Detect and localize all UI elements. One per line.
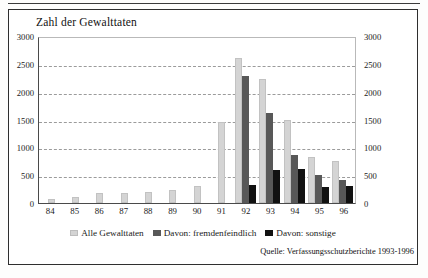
bar-group-94 [282, 38, 306, 203]
y-tick-left-2000: 2000 [2, 89, 34, 97]
bar-group-95 [306, 38, 330, 203]
top-divider [8, 3, 420, 4]
y-tick-right-2000: 2000 [364, 89, 398, 97]
source-note: Quelle: Verfassungsschutzberichte 1993-1… [260, 247, 414, 256]
bar-group-91 [209, 38, 233, 203]
x-tick-86: 86 [87, 206, 111, 216]
y-tick-right-500: 500 [364, 172, 398, 180]
bar-94-series2 [298, 169, 305, 204]
bar-90-series0 [194, 186, 201, 203]
bar-91-series0 [218, 122, 225, 203]
bar-92-series0 [235, 58, 242, 203]
x-tick-89: 89 [160, 206, 184, 216]
bar-group-96 [331, 38, 355, 203]
y-tick-left-500: 500 [2, 172, 34, 180]
y-tick-right-1500: 1500 [364, 117, 398, 125]
bar-group-87 [112, 38, 136, 203]
bar-86-series0 [96, 193, 103, 203]
x-tick-94: 94 [283, 206, 307, 216]
y-tick-left-1500: 1500 [2, 117, 34, 125]
bar-89-series0 [169, 190, 176, 203]
bar-95-series0 [308, 157, 315, 203]
x-axis-labels: 84858687888990919293949596 [38, 206, 356, 216]
x-tick-85: 85 [62, 206, 86, 216]
y-tick-right-3000: 3000 [364, 33, 398, 41]
legend-label-0: Alle Gewalttaten [81, 228, 144, 238]
plot-area [38, 37, 356, 204]
bar-96-series1 [339, 180, 346, 203]
legend-item-0: Alle Gewalttaten [70, 228, 144, 238]
bar-95-series2 [322, 187, 329, 203]
bar-96-series0 [332, 161, 339, 203]
bar-group-92 [234, 38, 258, 203]
x-tick-88: 88 [136, 206, 160, 216]
bar-95-series1 [315, 175, 322, 203]
bar-84-series0 [48, 199, 55, 203]
bar-88-series0 [145, 192, 152, 203]
legend-swatch-icon-1 [153, 230, 161, 236]
bar-85-series0 [72, 197, 79, 203]
bar-92-series1 [242, 76, 249, 203]
legend-item-2: Davon: sonstige [265, 228, 335, 238]
legend-swatch-icon-0 [70, 230, 78, 236]
bar-groups [39, 38, 355, 203]
x-tick-96: 96 [332, 206, 356, 216]
y-tick-left-3000: 3000 [2, 33, 34, 41]
bar-group-84 [39, 38, 63, 203]
x-tick-95: 95 [307, 206, 331, 216]
x-tick-84: 84 [38, 206, 62, 216]
y-tick-right-2500: 2500 [364, 61, 398, 69]
chart-legend: Alle GewalttatenDavon: fremdenfeindlichD… [38, 228, 368, 238]
legend-swatch-icon-2 [265, 230, 273, 236]
bar-group-85 [63, 38, 87, 203]
y-tick-left-1000: 1000 [2, 144, 34, 152]
y-tick-left-2500: 2500 [2, 61, 34, 69]
bar-group-93 [258, 38, 282, 203]
chart-title: Zahl der Gewalttaten [36, 16, 137, 28]
x-tick-93: 93 [258, 206, 282, 216]
legend-label-1: Davon: fremdenfeindlich [164, 228, 257, 238]
bar-93-series0 [259, 79, 266, 203]
bar-group-86 [88, 38, 112, 203]
bar-96-series2 [346, 186, 353, 203]
x-tick-92: 92 [234, 206, 258, 216]
bar-94-series0 [284, 120, 291, 204]
x-tick-91: 91 [209, 206, 233, 216]
bar-group-88 [136, 38, 160, 203]
y-tick-right-1000: 1000 [364, 144, 398, 152]
legend-label-2: Davon: sonstige [276, 228, 335, 238]
bar-94-series1 [291, 155, 298, 203]
bar-group-89 [161, 38, 185, 203]
bar-93-series1 [266, 113, 273, 203]
x-tick-90: 90 [185, 206, 209, 216]
bar-group-90 [185, 38, 209, 203]
y-tick-left-0: 0 [2, 200, 34, 208]
y-tick-right-0: 0 [364, 200, 398, 208]
legend-item-1: Davon: fremdenfeindlich [153, 228, 257, 238]
x-tick-87: 87 [111, 206, 135, 216]
bar-93-series2 [273, 170, 280, 203]
bar-87-series0 [121, 193, 128, 203]
figure-container: Zahl der Gewalttaten 0500100015002000250… [0, 0, 428, 278]
bar-92-series2 [249, 185, 256, 203]
